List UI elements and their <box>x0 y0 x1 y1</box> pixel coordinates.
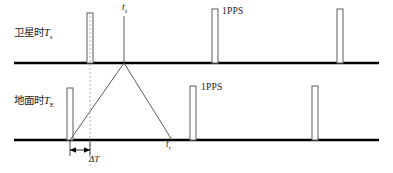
ground-pulse-3 <box>312 86 318 140</box>
ground-time-label: 地面时TE <box>14 96 54 109</box>
satellite-pps-label: 1PPS <box>222 7 243 17</box>
signal-downlink-leg <box>124 63 172 140</box>
satellite-time-label-cn: 卫星时 <box>14 27 44 38</box>
delta-t-measure-group <box>70 140 90 156</box>
satellite-pulse-2 <box>212 9 218 63</box>
ground-pps-label: 1PPS <box>201 83 222 93</box>
ground-pulse-2 <box>190 86 196 140</box>
ts-label: ts <box>122 3 127 14</box>
timing-diagram-figure: 卫星时Ts 地面时TE 1PPS 1PPS ts tr ΔT <box>0 0 393 173</box>
satellite-time-label: 卫星时Ts <box>14 28 53 41</box>
delta-t-label-subscript: T <box>94 154 99 164</box>
delta-t-arrowhead-left <box>70 147 76 152</box>
ground-pulse-1 <box>67 88 73 140</box>
delta-t-label: ΔT <box>89 155 99 164</box>
tr-label: tr <box>166 140 171 151</box>
delta-t-arrowhead-right <box>84 147 90 152</box>
satellite-pulse-3 <box>337 9 343 63</box>
satellite-time-label-subscript: s <box>50 33 53 41</box>
ground-timeline-group <box>14 86 379 140</box>
diagram-canvas <box>0 0 393 173</box>
satellite-timeline-group <box>14 9 379 63</box>
ts-label-subscript: s <box>125 7 128 14</box>
ground-time-label-subscript: E <box>50 101 54 109</box>
signal-path-group <box>70 16 172 140</box>
tr-label-subscript: r <box>169 144 172 151</box>
ground-time-label-cn: 地面时 <box>14 95 44 106</box>
signal-uplink-leg <box>70 63 124 140</box>
